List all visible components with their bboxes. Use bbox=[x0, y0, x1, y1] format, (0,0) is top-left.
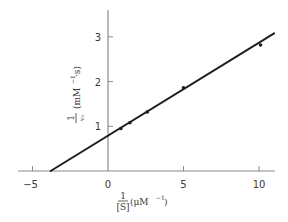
axes bbox=[18, 10, 275, 171]
x-tick-label: 5 bbox=[180, 179, 186, 190]
x-tick-label: −5 bbox=[23, 179, 38, 190]
axis-labels: 1[S](μM−1)1v₀(mM−1·s) bbox=[66, 66, 168, 212]
y-label-tail: ·s) bbox=[72, 66, 82, 77]
x-label-unit: (μM bbox=[130, 197, 149, 207]
y-tick-label: 2 bbox=[95, 77, 101, 88]
y-tick-label: 1 bbox=[95, 121, 101, 132]
y-axis-label-group: 1v₀(mM−1·s) bbox=[66, 66, 85, 123]
data-point bbox=[259, 43, 263, 47]
x-tick-label: 10 bbox=[253, 179, 266, 190]
fit-line bbox=[51, 33, 274, 171]
plot-series bbox=[51, 33, 274, 171]
x-label-numerator: 1 bbox=[120, 191, 126, 201]
y-label-unit: (mM bbox=[72, 88, 82, 109]
x-tick-label: 0 bbox=[105, 179, 111, 190]
x-label-denominator: [S] bbox=[116, 202, 129, 212]
x-label-close: ) bbox=[164, 197, 168, 207]
y-tick-label: 3 bbox=[95, 32, 101, 43]
lineweaver-burk-plot: −50510123 1[S](μM−1)1v₀(mM−1·s) bbox=[0, 0, 288, 222]
y-label-denominator: v₀ bbox=[78, 115, 85, 122]
y-label-numerator: 1 bbox=[66, 115, 76, 121]
